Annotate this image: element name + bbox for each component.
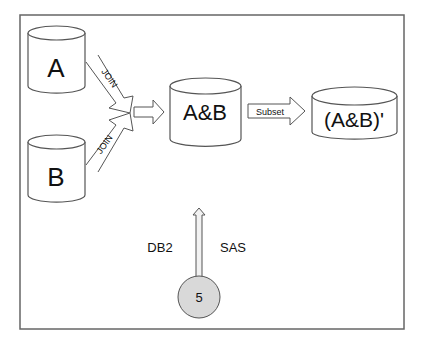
- subset-label: Subset: [256, 107, 285, 117]
- database-a: A: [28, 26, 85, 93]
- sas-label: SAS: [220, 240, 246, 255]
- step-number: 5: [195, 290, 202, 305]
- database-ab-subset-label: (A&B)': [324, 108, 384, 131]
- database-ab-subset: (A&B)': [312, 87, 397, 139]
- database-b: B: [28, 135, 85, 202]
- database-ab: A&B: [170, 78, 241, 146]
- step-circle: 5: [178, 276, 220, 318]
- db2-label: DB2: [147, 240, 172, 255]
- database-b-label: B: [47, 162, 64, 192]
- diagram-canvas: A B JOIN JOIN A&B Subset (A&B)' DB2 SAS: [0, 0, 422, 344]
- database-a-label: A: [47, 53, 65, 83]
- database-ab-label: A&B: [183, 100, 227, 125]
